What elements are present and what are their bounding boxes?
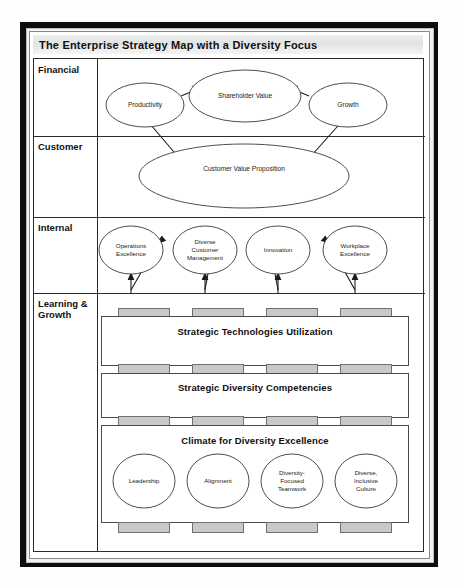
node-leadership-line1: Leadership bbox=[129, 477, 160, 484]
node-diverse-inclusive-culture-line3: Culture bbox=[356, 485, 377, 492]
connector-tab-2-bottom bbox=[192, 522, 244, 533]
connector-tab-3-bottom bbox=[266, 522, 318, 533]
node-diversity-focused-teamwork-line2: Focused bbox=[280, 477, 304, 484]
node-diverse-inclusive-culture-line1: Diverse, bbox=[355, 469, 378, 476]
page-title: The Enterprise Strategy Map with a Diver… bbox=[39, 37, 419, 53]
node-diversity-focused-teamwork-line3: Teamwork bbox=[278, 485, 307, 492]
connector-tab-4-bottom bbox=[340, 522, 392, 533]
learning-growth-section: Strategic Technologies Utilization Strat… bbox=[33, 58, 424, 552]
connector-tab-1-bottom bbox=[118, 522, 170, 533]
node-diverse-inclusive-culture-line2: Inclusive bbox=[354, 477, 379, 484]
node-diversity-focused-teamwork-line1: Diversity- bbox=[279, 469, 305, 476]
strategy-map-screenshot: The Enterprise Strategy Map with a Diver… bbox=[0, 0, 458, 586]
node-alignment-line1: Alignment bbox=[204, 477, 232, 484]
